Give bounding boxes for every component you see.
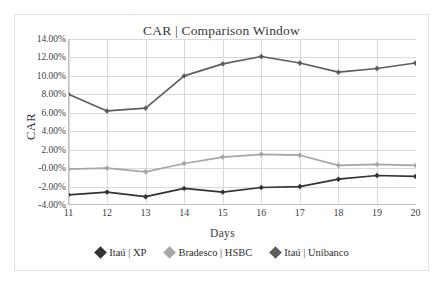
- legend-diamond-icon: [94, 246, 107, 259]
- data-point-marker: [220, 189, 225, 194]
- legend-diamond-icon: [269, 246, 282, 259]
- data-point-marker: [104, 165, 109, 170]
- data-point-marker: [143, 194, 148, 199]
- x-tick-label: 15: [208, 207, 238, 218]
- legend-item[interactable]: Itaú | XP: [96, 247, 146, 258]
- y-tick-label: -0.00%: [18, 163, 66, 173]
- y-tick-label: -2.00%: [18, 182, 66, 192]
- legend-label: Itaú | XP: [109, 247, 146, 258]
- y-axis-tick-labels: 14.00%12.00%10.00%8.00%6.00%4.00%2.00%-0…: [15, 39, 66, 205]
- data-point-marker: [413, 60, 416, 65]
- data-point-marker: [259, 54, 264, 59]
- data-point-marker: [374, 173, 379, 178]
- data-point-marker: [181, 161, 186, 166]
- x-tick-label: 20: [401, 207, 431, 218]
- x-tick-label: 18: [323, 207, 353, 218]
- y-tick-label: 14.00%: [18, 34, 66, 44]
- legend-item[interactable]: Bradesco | HSBC: [165, 247, 252, 258]
- data-point-marker: [413, 174, 416, 179]
- horizontal-gridlines: [68, 40, 416, 206]
- series-0: [68, 173, 416, 200]
- x-tick-label: 17: [285, 207, 315, 218]
- x-axis-tick-labels: 11121314151617181920: [68, 207, 416, 223]
- data-point-marker: [220, 154, 225, 159]
- chart-title: CAR | Comparison Window: [15, 23, 428, 39]
- data-point-marker: [143, 169, 148, 174]
- chart-card: CAR | Comparison Window CAR 14.00%12.00%…: [14, 14, 429, 271]
- chart-svg: [68, 39, 416, 205]
- y-tick-label: 2.00%: [18, 145, 66, 155]
- series-line: [69, 154, 416, 172]
- data-point-marker: [336, 163, 341, 168]
- legend-label: Bradesco | HSBC: [178, 247, 252, 258]
- data-point-marker: [259, 185, 264, 190]
- y-tick-label: 8.00%: [18, 89, 66, 99]
- x-tick-label: 13: [131, 207, 161, 218]
- x-tick-label: 14: [169, 207, 199, 218]
- data-point-marker: [259, 152, 264, 157]
- data-point-marker: [374, 66, 379, 71]
- data-point-marker: [336, 176, 341, 181]
- x-tick-label: 19: [362, 207, 392, 218]
- y-tick-label: 6.00%: [18, 108, 66, 118]
- y-tick-label: 4.00%: [18, 126, 66, 136]
- legend-item[interactable]: Itaú | Unibanco: [271, 247, 349, 258]
- data-point-marker: [336, 70, 341, 75]
- x-tick-label: 12: [92, 207, 122, 218]
- x-tick-label: 16: [246, 207, 276, 218]
- data-point-marker: [104, 108, 109, 113]
- y-tick-label: 12.00%: [18, 52, 66, 62]
- data-point-marker: [413, 163, 416, 168]
- data-point-marker: [297, 153, 302, 158]
- x-tick-label: 11: [54, 207, 84, 218]
- series-layer: [68, 54, 416, 200]
- series-line: [69, 57, 416, 111]
- data-point-marker: [297, 184, 302, 189]
- plot-area: [68, 39, 416, 205]
- series-2: [68, 54, 416, 114]
- legend-label: Itaú | Unibanco: [284, 247, 349, 258]
- data-point-marker: [374, 162, 379, 167]
- series-1: [68, 152, 416, 175]
- chart-legend: Itaú | XPBradesco | HSBCItaú | Unibanco: [15, 247, 430, 258]
- data-point-marker: [297, 60, 302, 65]
- y-tick-label: 10.00%: [18, 71, 66, 81]
- vertical-gridlines: [70, 39, 417, 205]
- data-point-marker: [104, 189, 109, 194]
- data-point-marker: [181, 186, 186, 191]
- series-line: [69, 175, 416, 196]
- data-point-marker: [220, 61, 225, 66]
- legend-diamond-icon: [164, 246, 177, 259]
- x-axis-label: Days: [15, 227, 430, 239]
